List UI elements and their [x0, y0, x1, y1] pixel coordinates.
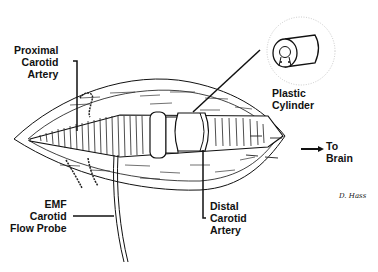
label-plastic-cylinder: Plastic Cylinder: [272, 87, 314, 111]
label-to-brain: To Brain: [326, 140, 353, 164]
probe-cable: [113, 155, 128, 262]
label-proximal-carotid-artery: Proximal Carotid Artery: [14, 44, 58, 80]
cylinder-inset: [267, 17, 335, 85]
label-distal-carotid-artery: Distal Carotid Artery: [210, 200, 247, 236]
artist-signature: D. Hass: [339, 192, 366, 200]
carotid-artery: [30, 112, 283, 158]
to-brain-arrow: [301, 146, 324, 152]
label-emf-carotid-flow-probe: EMF Carotid Flow Probe: [10, 198, 67, 234]
